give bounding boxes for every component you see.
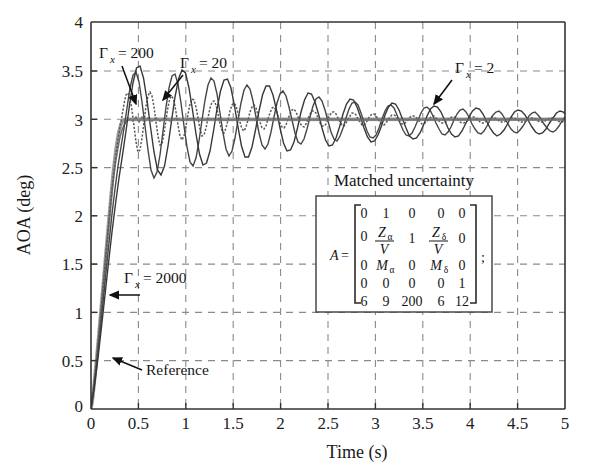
matrix-cell-2-2-num: Z [378,225,386,240]
matrix-cell-4-3: 0 [409,276,416,291]
annotation-gamma-2000-text: = 2000 [143,269,187,286]
xtick-label-3: 3 [371,414,380,433]
annotation-gamma-2-sub: x [465,68,471,80]
matrix-cell-5-2: 9 [383,294,390,309]
matrix-cell-1-5: 0 [459,206,466,221]
matrix-cell-2-5: 0 [459,231,466,246]
ytick-label-0.5: 0.5 [62,352,83,371]
matrix-cell-3-1: 0 [361,258,368,273]
matrix-cell-5-1: 6 [361,294,368,309]
ytick-label-2: 2 [75,207,84,226]
matrix-cell-2-3: 1 [409,231,416,246]
ytick-label-1.5: 1.5 [62,255,83,274]
annotation-gamma-2-symbol: Γ [455,59,464,76]
matrix-cell-2-1: 0 [361,229,368,244]
xtick-label-4: 4 [466,414,475,433]
matrix-cell-3-2-var: M [375,258,389,273]
matrix-cell-1-3: 0 [409,206,416,221]
matrix-cell-5-3: 200 [402,294,423,309]
matrix-cell-1-2: 1 [383,206,390,221]
inset-title: Matched uncertainty [334,171,475,190]
ytick-label-2.5: 2.5 [62,159,83,178]
ytick-label-4: 4 [75,13,84,32]
matrix-trailing: ; [481,250,485,265]
annotation-gamma-20-text: = 20 [199,54,227,71]
matrix-cell-3-5: 0 [459,258,466,273]
ytick-label-3.5: 3.5 [62,62,83,81]
matrix-cell-2-4-num: Z [432,225,440,240]
annotation-gamma-2000-symbol: Γ [124,269,133,286]
xtick-label-2: 2 [276,414,285,433]
matrix-cell-5-5: 12 [455,294,469,309]
matrix-cell-3-4-sub: δ [444,265,449,275]
matrix-label: A [329,248,339,263]
annotation-gamma-20-sub: x [190,63,196,75]
annotation-reference-text: Reference [146,361,209,378]
matrix-cell-3-2-sub: α [390,265,395,275]
annotation-gamma-2-text: = 2 [474,59,494,76]
matrix-cell-4-5: 1 [459,276,466,291]
chart-svg: 4 3.5 3 2.5 2 1.5 1 0.5 0 0 0.5 1 1.5 2 … [0,0,597,474]
matrix-cell-2-4-den: V [434,242,444,257]
matrix-cell-2-2-den: V [380,242,390,257]
annotation-gamma-200-sub: x [109,53,115,65]
xtick-label-1: 1 [182,414,191,433]
x-axis-title: Time (s) [327,442,388,463]
y-axis-title: AOA (deg) [14,175,35,255]
xtick-label-2.5: 2.5 [317,414,338,433]
matrix-cell-4-1: 0 [361,276,368,291]
xtick-label-1.5: 1.5 [223,414,244,433]
annotation-gamma-20-symbol: Γ [180,54,189,71]
matrix-cell-3-4-var: M [429,258,443,273]
chart-figure: 4 3.5 3 2.5 2 1.5 1 0.5 0 0 0.5 1 1.5 2 … [0,0,597,474]
matrix-cell-4-4: 0 [438,276,445,291]
xtick-label-0.5: 0.5 [128,414,149,433]
ytick-label-0: 0 [75,397,84,416]
annotation-gamma-200-text: = 200 [118,44,154,61]
matrix-cell-5-4: 6 [438,294,445,309]
matrix-equals: = [341,248,349,263]
xtick-label-4.5: 4.5 [507,414,528,433]
ytick-label-3: 3 [75,111,84,130]
matrix-cell-1-4: 0 [438,206,445,221]
annotation-gamma-200-symbol: Γ [99,44,108,61]
matrix-cell-1-1: 0 [361,206,368,221]
matrix-cell-4-2: 0 [383,276,390,291]
xtick-label-5: 5 [561,414,570,433]
ytick-label-1: 1 [75,304,84,323]
matrix-cell-3-3: 0 [409,258,416,273]
xtick-label-0: 0 [87,414,96,433]
xtick-label-3.5: 3.5 [412,414,433,433]
annotation-gamma-2000-sub: x [134,278,140,290]
